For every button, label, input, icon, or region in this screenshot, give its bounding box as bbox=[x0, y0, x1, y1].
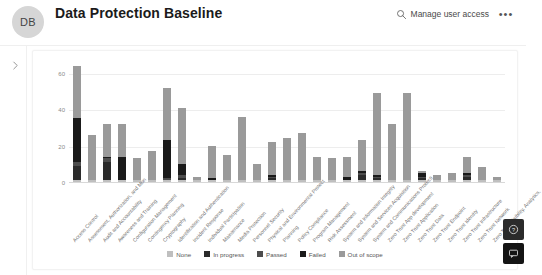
stacked-bar[interactable] bbox=[238, 117, 246, 182]
bar-segment-none bbox=[343, 180, 351, 182]
stacked-bar[interactable] bbox=[403, 93, 411, 182]
bar-segment-none bbox=[73, 180, 81, 182]
bar-slot[interactable] bbox=[415, 64, 430, 182]
legend-swatch bbox=[257, 251, 263, 257]
bar-segment-out-of-scope bbox=[223, 155, 231, 180]
bar-slot[interactable] bbox=[460, 64, 475, 182]
stacked-bar[interactable] bbox=[178, 108, 186, 182]
bar-slot[interactable] bbox=[370, 64, 385, 182]
bar-segment-none bbox=[298, 180, 306, 182]
chart-legend: NoneIn progressPassedFailedOut of scope bbox=[33, 247, 517, 261]
bar-segment-failed bbox=[178, 164, 186, 175]
bar-segment-out-of-scope bbox=[373, 93, 381, 175]
bar-segment-none bbox=[283, 180, 291, 182]
legend-item-passed[interactable]: Passed bbox=[257, 251, 287, 258]
bar-slot[interactable] bbox=[129, 64, 144, 182]
bar-slot[interactable] bbox=[114, 64, 129, 182]
stacked-bar[interactable] bbox=[358, 140, 366, 182]
legend-item-in-progress[interactable]: In progress bbox=[204, 251, 244, 258]
stacked-bar[interactable] bbox=[223, 155, 231, 182]
stacked-bar[interactable] bbox=[448, 173, 456, 182]
bar-slot[interactable] bbox=[189, 64, 204, 182]
bar-segment-none bbox=[148, 180, 156, 182]
stacked-bar[interactable] bbox=[493, 177, 501, 182]
bar-slot[interactable] bbox=[340, 64, 355, 182]
bar-slot[interactable] bbox=[144, 64, 159, 182]
manage-user-access-button[interactable]: Manage user access bbox=[396, 7, 489, 21]
y-axis-tick-label: 20 bbox=[58, 144, 65, 150]
bar-segment-out-of-scope bbox=[283, 138, 291, 180]
expand-panel-button[interactable] bbox=[8, 58, 22, 72]
help-icon: ? bbox=[508, 224, 519, 235]
bar-slot[interactable] bbox=[69, 64, 84, 182]
stacked-bar[interactable] bbox=[283, 138, 291, 182]
bar-slot[interactable] bbox=[99, 64, 114, 182]
stacked-bar[interactable] bbox=[328, 158, 336, 182]
bar-slot[interactable] bbox=[430, 64, 445, 182]
page-header: DB Data Protection Baseline Manage user … bbox=[0, 0, 526, 45]
stacked-bar[interactable] bbox=[193, 177, 201, 182]
bar-slot[interactable] bbox=[249, 64, 264, 182]
stacked-bar[interactable] bbox=[478, 167, 486, 182]
bar-slot[interactable] bbox=[174, 64, 189, 182]
bar-segment-out-of-scope bbox=[103, 124, 111, 157]
bar-slot[interactable] bbox=[400, 64, 415, 182]
bar-slot[interactable] bbox=[204, 64, 219, 182]
stacked-bar[interactable] bbox=[268, 142, 276, 182]
legend-item-out-of-scope[interactable]: Out of scope bbox=[339, 251, 383, 258]
stacked-bar[interactable] bbox=[298, 133, 306, 182]
stacked-bar[interactable] bbox=[373, 93, 381, 182]
stacked-bar[interactable] bbox=[208, 146, 216, 182]
bar-slot[interactable] bbox=[294, 64, 309, 182]
bar-slot[interactable] bbox=[490, 64, 505, 182]
bar-slot[interactable] bbox=[219, 64, 234, 182]
bar-segment-none bbox=[388, 180, 396, 182]
bar-segment-out-of-scope bbox=[343, 157, 351, 177]
chart-card: 0204060 Access ControlAssessment, Author… bbox=[32, 50, 518, 270]
help-button[interactable]: ? bbox=[503, 219, 524, 240]
bar-slot[interactable] bbox=[475, 64, 490, 182]
stacked-bar[interactable] bbox=[73, 66, 81, 182]
stacked-bar[interactable] bbox=[433, 175, 441, 182]
bar-segment-out-of-scope bbox=[448, 173, 456, 180]
stacked-bar[interactable] bbox=[388, 124, 396, 182]
stacked-bar[interactable] bbox=[253, 164, 261, 182]
left-rail bbox=[0, 46, 26, 275]
bar-segment-out-of-scope bbox=[208, 146, 216, 179]
legend-item-none[interactable]: None bbox=[167, 251, 191, 258]
legend-label: Passed bbox=[266, 251, 287, 258]
bar-segment-failed bbox=[163, 140, 171, 178]
stacked-bar[interactable] bbox=[463, 157, 471, 182]
bar-slot[interactable] bbox=[325, 64, 340, 182]
page-title: Data Protection Baseline bbox=[55, 5, 222, 21]
stacked-bar[interactable] bbox=[343, 157, 351, 182]
stacked-bar-chart: 0204060 Access ControlAssessment, Author… bbox=[33, 51, 517, 269]
bar-segment-out-of-scope bbox=[328, 158, 336, 180]
stacked-bar[interactable] bbox=[163, 88, 171, 182]
stacked-bar[interactable] bbox=[148, 151, 156, 182]
bar-slot[interactable] bbox=[355, 64, 370, 182]
legend-item-failed[interactable]: Failed bbox=[300, 251, 326, 258]
bar-segment-in-progress bbox=[103, 162, 111, 180]
bar-segment-none bbox=[178, 180, 186, 182]
stacked-bar[interactable] bbox=[88, 135, 96, 182]
stacked-bar[interactable] bbox=[118, 124, 126, 182]
more-options-button[interactable]: ••• bbox=[498, 6, 514, 22]
y-axis-tick-label: 40 bbox=[58, 107, 65, 113]
bar-segment-out-of-scope bbox=[388, 124, 396, 180]
stacked-bar[interactable] bbox=[103, 124, 111, 182]
bar-segment-none bbox=[238, 180, 246, 182]
bar-slot[interactable] bbox=[84, 64, 99, 182]
bar-segment-none bbox=[88, 180, 96, 182]
bar-slot[interactable] bbox=[279, 64, 294, 182]
bar-slot[interactable] bbox=[264, 64, 279, 182]
bar-segment-in-progress bbox=[73, 166, 81, 181]
bar-slot[interactable] bbox=[445, 64, 460, 182]
feedback-button[interactable] bbox=[503, 243, 524, 264]
bar-segment-none bbox=[358, 180, 366, 182]
bar-segment-none bbox=[433, 180, 441, 182]
bar-slot[interactable] bbox=[310, 64, 325, 182]
bar-slot[interactable] bbox=[159, 64, 174, 182]
bar-slot[interactable] bbox=[385, 64, 400, 182]
bar-slot[interactable] bbox=[234, 64, 249, 182]
